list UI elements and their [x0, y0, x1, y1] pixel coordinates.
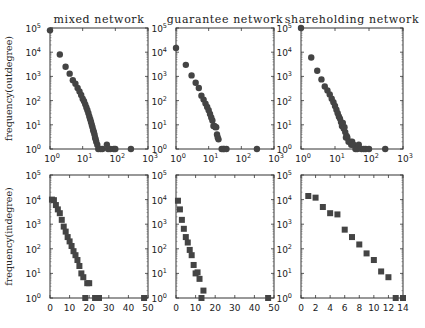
data-points [305, 193, 406, 301]
data-point [62, 64, 68, 70]
tick-label: 104 [276, 194, 292, 206]
tick-label: 101 [151, 119, 167, 131]
data-point [313, 195, 319, 201]
data-point [327, 210, 333, 216]
panel-shareholding-indegree: 10010110210310410502468101214 [276, 169, 409, 313]
tick-label: 0 [173, 303, 179, 313]
tick-label: 10 [190, 303, 202, 313]
tick-label: 2 [313, 303, 319, 313]
tick-label: 105 [151, 169, 167, 181]
figure: 100101102103104105100101102103mixed netw… [0, 0, 425, 328]
plot-frame [301, 28, 403, 149]
data-point [96, 295, 102, 301]
data-point [66, 70, 72, 76]
tick-label: 20 [209, 303, 221, 313]
data-point [364, 250, 370, 256]
tick-label: 103 [276, 218, 292, 230]
tick-label: 20 [83, 303, 95, 313]
tick-label: 12 [383, 303, 394, 313]
tick-label: 50 [142, 303, 154, 313]
data-point [349, 234, 355, 240]
tick-label: 100 [276, 143, 292, 155]
tick-label: 103 [397, 152, 413, 164]
tick-label: 104 [25, 46, 41, 58]
tick-label: 10 [64, 303, 76, 313]
data-point [185, 240, 191, 246]
tick-label: 100 [25, 292, 41, 304]
tick-label: 105 [25, 169, 41, 181]
tick-label: 102 [151, 95, 167, 107]
data-point [196, 85, 202, 91]
data-point [197, 276, 203, 282]
tick-label: 0 [298, 303, 304, 313]
data-point [191, 262, 197, 268]
tick-label: 103 [25, 70, 41, 82]
data-point [69, 243, 75, 249]
data-point [63, 229, 69, 235]
tick-label: 103 [276, 70, 292, 82]
tick-label: 14 [397, 303, 409, 313]
data-points [175, 198, 271, 301]
tick-label: 103 [151, 70, 167, 82]
tick-label: 10 [368, 303, 380, 313]
tick-label: 102 [363, 152, 379, 164]
tick-label: 40 [249, 303, 261, 313]
data-point [177, 206, 183, 212]
data-point [314, 68, 320, 74]
data-point [74, 257, 80, 263]
tick-label: 100 [151, 143, 167, 155]
tick-label: 102 [110, 152, 126, 164]
tick-label: 30 [229, 303, 241, 313]
data-point [334, 211, 340, 217]
tick-label: 105 [25, 22, 41, 34]
data-point [59, 217, 65, 223]
data-point [57, 210, 63, 216]
tick-label: 105 [276, 169, 292, 181]
data-point [192, 79, 198, 85]
tick-label: 101 [151, 267, 167, 279]
data-point [76, 263, 82, 269]
tick-label: 101 [276, 267, 292, 279]
tick-label: 50 [268, 303, 280, 313]
data-points [298, 25, 389, 152]
panel-guarantee-indegree: 10010110210310410501020304050 [151, 169, 280, 313]
panel-mixed-outdegree: 100101102103104105100101102103mixed netw… [3, 13, 158, 164]
data-points [49, 197, 147, 301]
data-point [183, 62, 189, 68]
tick-label: 100 [276, 292, 292, 304]
plot-frame [176, 28, 274, 149]
data-point [47, 27, 53, 33]
tick-label: 104 [25, 194, 41, 206]
data-point [189, 252, 195, 258]
panel-title: shareholding network [285, 13, 419, 26]
data-point [141, 295, 147, 301]
data-point [356, 241, 362, 247]
tick-label: 100 [151, 292, 167, 304]
data-point [112, 146, 118, 152]
data-point [305, 193, 311, 199]
tick-label: 40 [123, 303, 135, 313]
panel-mixed-indegree: 10010110210310410501020304050frequency(i… [3, 169, 154, 313]
data-point [179, 217, 185, 223]
data-point [254, 146, 260, 152]
tick-label: 102 [276, 95, 292, 107]
tick-label: 102 [236, 152, 252, 164]
data-points [173, 45, 260, 152]
tick-label: 101 [276, 119, 292, 131]
tick-label: 101 [25, 267, 41, 279]
data-point [308, 54, 314, 60]
tick-label: 8 [356, 303, 362, 313]
data-point [342, 227, 348, 233]
data-point [400, 295, 406, 301]
data-point [213, 124, 219, 130]
tick-label: 104 [151, 194, 167, 206]
data-point [393, 295, 399, 301]
data-point [198, 295, 204, 301]
panel-title: guarantee network [167, 13, 284, 26]
tick-label: 101 [77, 152, 93, 164]
tick-label: 4 [327, 303, 333, 313]
tick-label: 30 [103, 303, 115, 313]
data-point [57, 51, 63, 57]
data-point [215, 136, 221, 142]
data-point [175, 198, 181, 204]
